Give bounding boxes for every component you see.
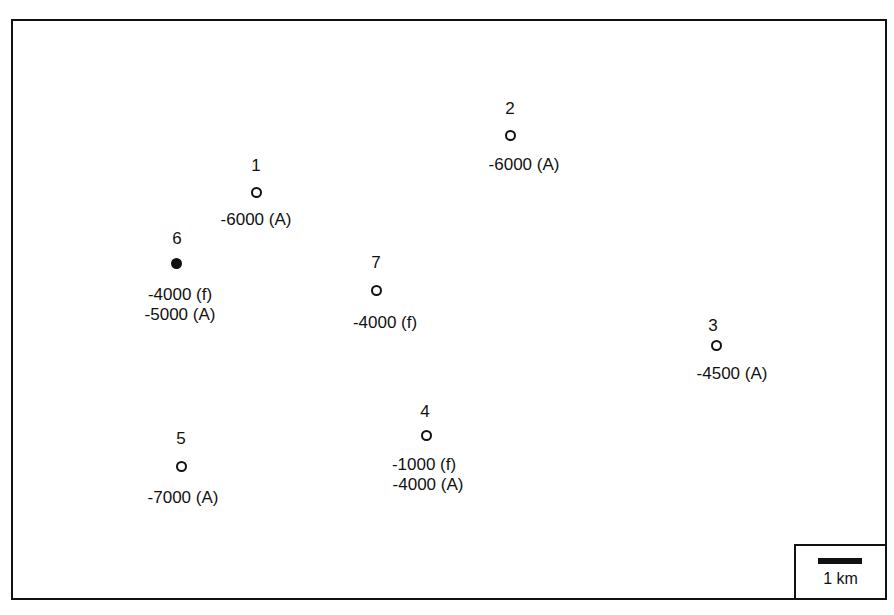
site-number-3: 3 xyxy=(693,317,733,334)
site-number-2: 2 xyxy=(490,100,530,117)
site-number-1: 1 xyxy=(236,157,276,174)
open-circle-marker-icon xyxy=(711,340,722,351)
site-label-2-line-1: -6000 (A) xyxy=(454,155,594,175)
site-label-7-line-1: -4000 (f) xyxy=(315,313,455,333)
scale-bar-line xyxy=(818,558,862,564)
site-label-3-line-1: -4500 (A) xyxy=(662,364,802,384)
scale-bar-label: 1 km xyxy=(796,570,885,588)
site-label-4-line-2: -4000 (A) xyxy=(358,475,498,495)
scale-bar-box: 1 km xyxy=(794,544,885,598)
filled-circle-marker-icon xyxy=(171,258,182,269)
site-number-7: 7 xyxy=(356,254,396,271)
site-label-6-line-2: -5000 (A) xyxy=(110,305,250,325)
site-number-6: 6 xyxy=(157,230,197,247)
site-number-4: 4 xyxy=(405,403,445,420)
site-label-1-line-1: -6000 (A) xyxy=(186,210,326,230)
site-label-4-line-1: -1000 (f) xyxy=(354,455,494,475)
open-circle-marker-icon xyxy=(371,285,382,296)
site-label-6-line-1: -4000 (f) xyxy=(110,285,250,305)
open-circle-marker-icon xyxy=(505,130,516,141)
open-circle-marker-icon xyxy=(251,187,262,198)
open-circle-marker-icon xyxy=(421,430,432,441)
site-number-5: 5 xyxy=(161,430,201,447)
open-circle-marker-icon xyxy=(176,461,187,472)
site-label-5-line-1: -7000 (A) xyxy=(113,488,253,508)
